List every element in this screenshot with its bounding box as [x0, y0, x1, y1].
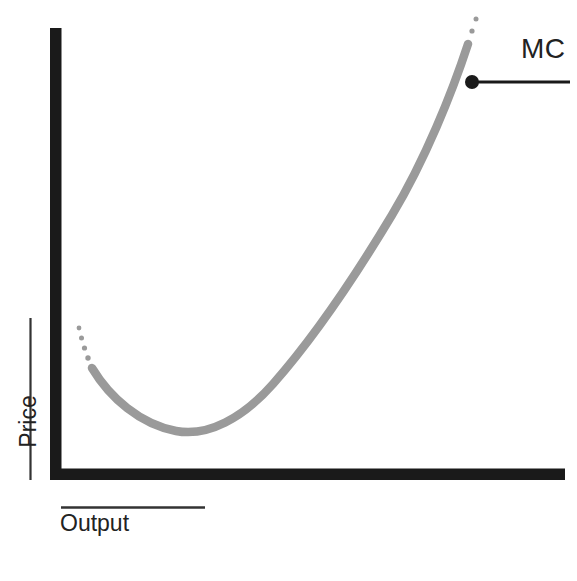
y-axis-label: Price: [17, 378, 40, 466]
mc-callout-dot: [465, 75, 479, 89]
x-axis-label: Output: [60, 512, 129, 535]
chart-background: [0, 0, 577, 581]
marginal-cost-chart: Price Output MC: [0, 0, 577, 581]
chart-canvas: [0, 0, 577, 581]
y-axis: [50, 28, 62, 480]
mc-series-label: MC: [521, 35, 566, 63]
x-axis: [50, 469, 565, 481]
